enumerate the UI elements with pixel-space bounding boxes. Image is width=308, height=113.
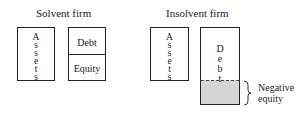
insolvent-assets-label: A s s e t s xyxy=(151,33,188,81)
debt-equity-divider xyxy=(69,54,105,55)
solvent-assets-box: A s s e t s xyxy=(17,27,55,81)
insolvent-assets-box: A s s e t s xyxy=(150,27,189,81)
insolvent-debt-label: D e b t xyxy=(201,44,239,84)
solvent-equity-label: Equity xyxy=(69,63,105,74)
right-curly-brace-icon xyxy=(243,80,253,106)
insolvent-debt-box: D e b t xyxy=(200,27,240,105)
solvent-assets-label: A s s e t s xyxy=(18,33,54,81)
insolvent-firm-title: Insolvent firm xyxy=(166,7,229,19)
negative-equity-label: Negative equity xyxy=(258,82,294,104)
solvent-debt-label: Debt xyxy=(69,37,105,48)
solvent-liabilities-box: Debt Equity xyxy=(68,27,106,81)
solvent-firm-title: Solvent firm xyxy=(36,7,91,19)
